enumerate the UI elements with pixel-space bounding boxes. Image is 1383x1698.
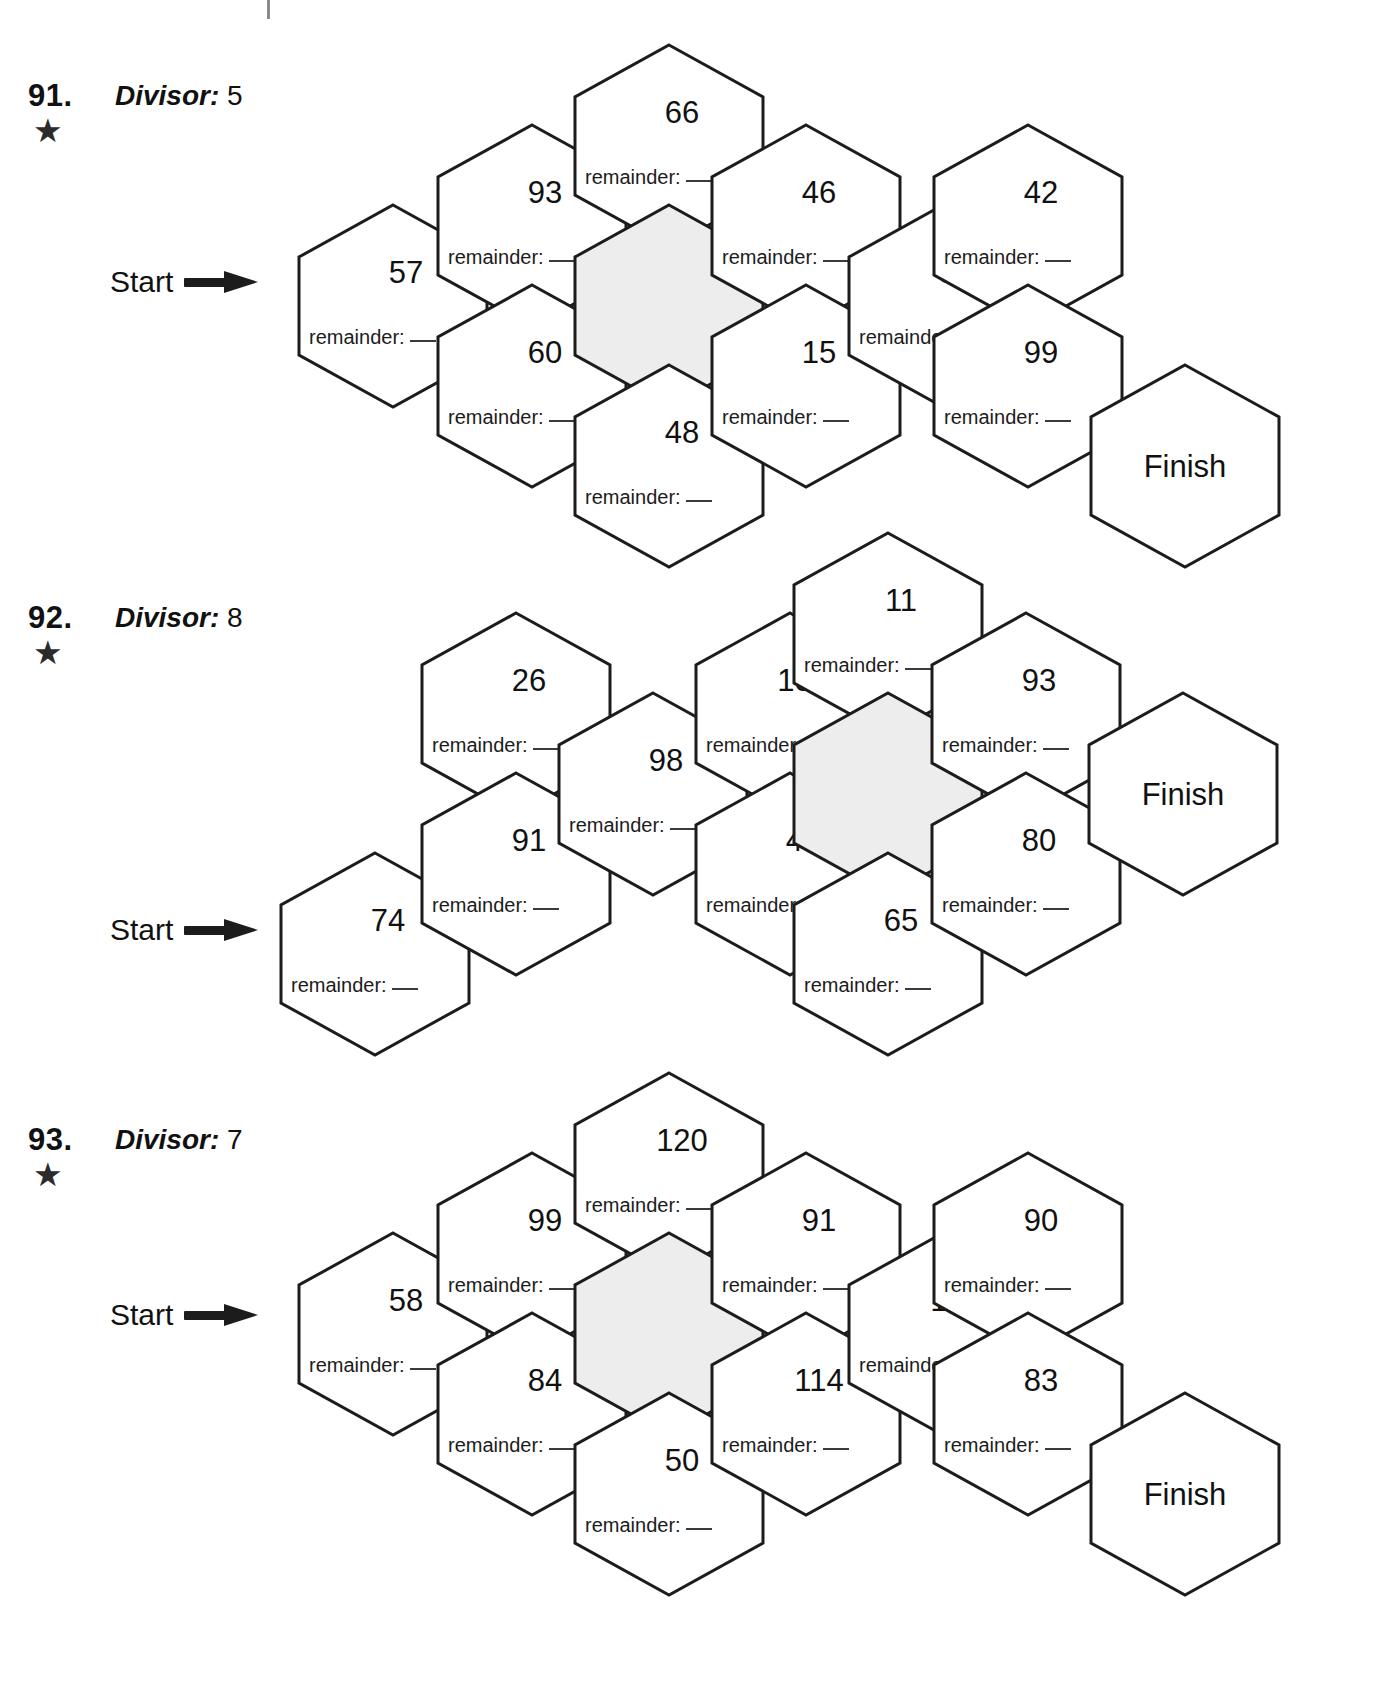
divisor-value: 7 (219, 1124, 242, 1155)
start-marker: Start (110, 913, 258, 947)
start-label: Start (110, 913, 173, 947)
start-arrow-icon (184, 271, 258, 293)
puzzle-number: 91. (28, 78, 73, 114)
divisor-value: 5 (219, 80, 242, 111)
start-arrow-icon (184, 919, 258, 941)
start-label: Start (110, 1298, 173, 1332)
finish-hexagon[interactable]: Finish (1087, 1391, 1283, 1597)
start-label: Start (110, 265, 173, 299)
hexagon-outline (1087, 363, 1283, 569)
start-marker: Start (110, 1298, 258, 1332)
divisor-label: Divisor: (115, 602, 219, 633)
divisor-text: Divisor: 8 (115, 602, 243, 634)
finish-hexagon[interactable]: Finish (1087, 363, 1283, 569)
finish-hexagon[interactable]: Finish (1085, 691, 1281, 897)
start-marker: Start (110, 265, 258, 299)
puzzle-header: 91.★Divisor: 5 (0, 78, 400, 168)
puzzle-header: 92.★Divisor: 8 (0, 600, 400, 690)
divisor-value: 8 (219, 602, 242, 633)
divisor-text: Divisor: 7 (115, 1124, 243, 1156)
start-arrow-icon (184, 1304, 258, 1326)
star-icon: ★ (33, 636, 63, 669)
star-icon: ★ (33, 114, 63, 147)
divisor-label: Divisor: (115, 80, 219, 111)
hexagon-outline (1085, 691, 1281, 897)
hexagon-outline (1087, 1391, 1283, 1597)
puzzle-number: 92. (28, 600, 73, 636)
puzzle-number: 93. (28, 1122, 73, 1158)
registration-tick-mark (267, 0, 270, 19)
star-icon: ★ (33, 1158, 63, 1191)
puzzle-header: 93.★Divisor: 7 (0, 1122, 400, 1212)
divisor-label: Divisor: (115, 1124, 219, 1155)
divisor-text: Divisor: 5 (115, 80, 243, 112)
